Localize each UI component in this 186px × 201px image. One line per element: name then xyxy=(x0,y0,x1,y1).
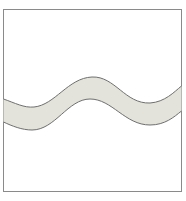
frame-border xyxy=(4,10,182,192)
wave-diagram xyxy=(0,0,186,201)
